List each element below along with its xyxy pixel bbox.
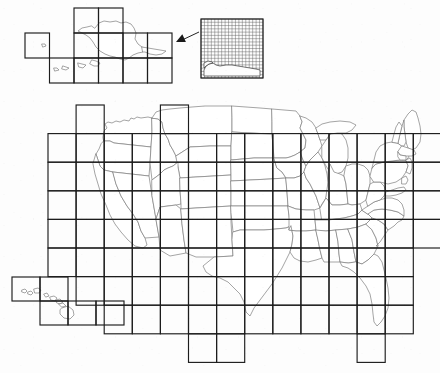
pointer-arrowhead [176,34,186,42]
map-figure [0,0,440,373]
map-screenshot [0,0,440,373]
detail-inset-layer [0,0,440,373]
